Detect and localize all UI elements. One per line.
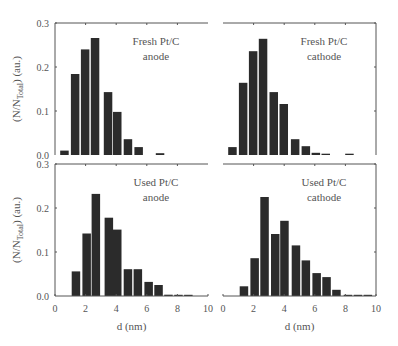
histogram-bar — [260, 197, 269, 296]
histogram-bar — [345, 154, 354, 155]
x-tick-label: 10 — [203, 303, 213, 314]
histogram-bar — [72, 271, 81, 296]
histogram-bar — [280, 221, 289, 296]
histogram-bar — [60, 151, 68, 155]
histogram-bar — [249, 51, 258, 155]
x-tick-label: 2 — [83, 303, 88, 314]
histogram-bar — [105, 218, 114, 296]
histogram-bar — [124, 269, 133, 296]
histogram-bar — [322, 277, 331, 296]
histogram-bar — [332, 290, 341, 296]
histogram-bar — [302, 146, 311, 155]
y-tick-label: 0.3 — [37, 18, 50, 29]
histogram-bar — [250, 258, 259, 296]
histogram-bar — [81, 49, 90, 155]
histogram-bar — [259, 39, 268, 155]
y-tick-label: 0.2 — [37, 203, 50, 214]
histogram-bar — [270, 92, 279, 155]
x-tick-label: 6 — [312, 303, 317, 314]
x-tick-label: 2 — [251, 303, 256, 314]
histogram-bar — [134, 147, 143, 155]
histogram-bar — [240, 286, 249, 296]
histogram-bar — [144, 282, 153, 296]
x-axis-label: d (nm) — [117, 320, 147, 333]
x-tick-label: 4 — [282, 303, 287, 314]
histogram-bar — [156, 153, 165, 155]
histogram-bar — [92, 194, 101, 296]
panel-title: Used Pt/C — [134, 176, 179, 188]
histogram-bar — [134, 269, 143, 296]
x-tick-label: 4 — [114, 303, 119, 314]
y-tick-label: 0.1 — [37, 106, 50, 117]
histogram-bar — [312, 153, 321, 155]
y-axis-label: (N/NTotal) (au.) — [10, 197, 25, 263]
histogram-bar — [154, 285, 163, 296]
x-tick-label: 6 — [144, 303, 149, 314]
histogram-bar — [292, 245, 301, 296]
x-tick-label: 0 — [221, 303, 226, 314]
histogram-bar — [124, 139, 133, 155]
x-tick-label: 8 — [343, 303, 348, 314]
panel-title: cathode — [307, 50, 341, 62]
x-axis-label: d (nm) — [285, 320, 315, 333]
histogram-bar — [71, 74, 80, 155]
panel-title: anode — [143, 191, 169, 203]
histogram-bar — [322, 154, 331, 155]
panel-title: Fresh Pt/C — [133, 35, 180, 47]
histogram-bar — [312, 273, 321, 296]
histogram-grid: 0.00.10.20.3Fresh Pt/Canode(N/NTotal) (a… — [0, 0, 398, 346]
y-tick-label: 0.0 — [37, 291, 50, 302]
histogram-bar — [113, 112, 122, 155]
y-axis-label: (N/NTotal) (au.) — [10, 56, 25, 122]
histogram-bar — [113, 230, 122, 296]
panel-title: cathode — [307, 191, 341, 203]
y-tick-label: 0.1 — [37, 247, 50, 258]
histogram-bar — [239, 83, 248, 155]
panel-title: Used Pt/C — [302, 176, 347, 188]
x-tick-label: 8 — [175, 303, 180, 314]
histogram-bar — [291, 139, 300, 155]
figure: 0.00.10.20.3Fresh Pt/Canode(N/NTotal) (a… — [0, 0, 398, 346]
histogram-bar — [104, 92, 113, 155]
x-tick-label: 0 — [53, 303, 58, 314]
panel-title: Fresh Pt/C — [301, 35, 348, 47]
x-tick-label: 10 — [371, 303, 381, 314]
histogram-bar — [271, 234, 280, 296]
y-tick-label: 0.3 — [37, 159, 50, 170]
histogram-bar — [228, 147, 237, 155]
histogram-bar — [302, 260, 311, 296]
histogram-bar — [91, 38, 100, 155]
histogram-bar — [280, 104, 289, 155]
histogram-bar — [82, 234, 91, 297]
panel-title: anode — [143, 50, 169, 62]
y-tick-label: 0.2 — [37, 62, 50, 73]
